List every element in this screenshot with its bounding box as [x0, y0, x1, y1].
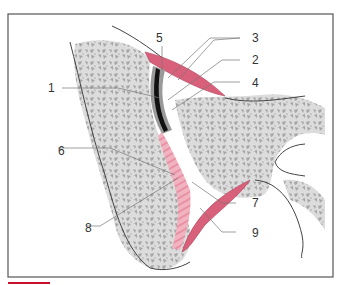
- label-5: 5: [156, 31, 163, 45]
- label-6: 6: [58, 144, 65, 158]
- anatomy-figure: 1 2 3 4 5 6 7 8 9: [0, 0, 341, 285]
- label-7: 7: [252, 196, 259, 210]
- label-9: 9: [252, 226, 259, 240]
- label-2: 2: [252, 53, 259, 67]
- accent-bar: [8, 282, 50, 284]
- label-3: 3: [252, 31, 259, 45]
- label-1: 1: [48, 81, 55, 95]
- label-8: 8: [85, 221, 92, 235]
- label-4: 4: [252, 76, 259, 90]
